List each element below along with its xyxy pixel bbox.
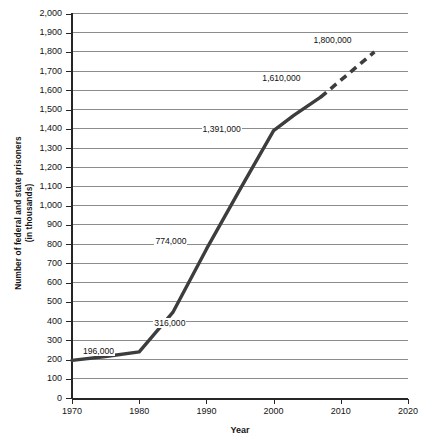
x-tick-mark <box>274 399 275 404</box>
y-tick-label: 1,100 <box>18 181 62 191</box>
y-tick-label: 1,000 <box>18 200 62 210</box>
x-tick-mark <box>341 399 342 404</box>
y-tick-label: 800 <box>18 239 62 249</box>
gridline-1,000 <box>72 205 408 206</box>
x-tick-label: 2010 <box>317 406 365 416</box>
gridline-400 <box>72 321 408 322</box>
x-axis-title: Year <box>72 425 408 435</box>
gridline-500 <box>72 301 408 302</box>
y-tick-label: 100 <box>18 373 62 383</box>
x-tick-label: 2020 <box>384 406 422 416</box>
y-tick-label: 2,000 <box>18 8 62 18</box>
y-tick-label: 300 <box>18 335 62 345</box>
x-axis-line <box>72 398 408 400</box>
y-tick-label: 500 <box>18 296 62 306</box>
gridline-1,900 <box>72 32 408 33</box>
y-tick-label: 1,800 <box>18 46 62 56</box>
y-tick-label: 400 <box>18 316 62 326</box>
x-tick-label: 2000 <box>250 406 298 416</box>
data-point-label: 1,610,000 <box>261 73 301 83</box>
y-axis-line <box>71 13 73 399</box>
gridline-1,200 <box>72 167 408 168</box>
y-tick-label: 600 <box>18 277 62 287</box>
x-tick-mark <box>206 399 207 404</box>
prisoner-population-line-chart: Number of federal and state prisoners (i… <box>0 0 422 445</box>
x-tick-label: 1980 <box>115 406 163 416</box>
y-tick-label: 1,500 <box>18 104 62 114</box>
gridline-1,500 <box>72 109 408 110</box>
x-tick-label: 1990 <box>182 406 230 416</box>
gridline-1,700 <box>72 71 408 72</box>
x-tick-mark <box>408 399 409 404</box>
data-point-label: 1,800,000 <box>312 35 352 45</box>
gridline-300 <box>72 340 408 341</box>
data-point-label: 196,000 <box>82 346 115 356</box>
x-tick-mark <box>139 399 140 404</box>
gridline-1,300 <box>72 148 408 149</box>
y-tick-label: 1,600 <box>18 85 62 95</box>
gridline-1,800 <box>72 51 408 52</box>
gridline-2,000 <box>72 13 408 14</box>
gridline-1,600 <box>72 90 408 91</box>
gridline-700 <box>72 263 408 264</box>
y-tick-label: 900 <box>18 219 62 229</box>
data-point-label: 1,391,000 <box>202 124 242 134</box>
y-tick-label: 1,700 <box>18 66 62 76</box>
data-point-label: 316,000 <box>153 318 186 328</box>
gridline-200 <box>72 359 408 360</box>
gridline-1,100 <box>72 186 408 187</box>
gridline-800 <box>72 244 408 245</box>
y-tick-label: 1,900 <box>18 27 62 37</box>
x-tick-mark <box>72 399 73 404</box>
y-tick-label: 1,300 <box>18 143 62 153</box>
y-tick-label: 200 <box>18 354 62 364</box>
gridline-600 <box>72 282 408 283</box>
gridline-900 <box>72 224 408 225</box>
y-tick-label: 0 <box>18 393 62 403</box>
y-tick-label: 1,400 <box>18 123 62 133</box>
y-tick-label: 700 <box>18 258 62 268</box>
gridline-100 <box>72 378 408 379</box>
x-tick-label: 1970 <box>48 406 96 416</box>
data-point-label: 774,000 <box>154 236 187 246</box>
y-tick-label: 1,200 <box>18 162 62 172</box>
